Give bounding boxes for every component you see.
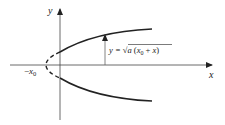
parabola-lower-branch	[60, 78, 152, 101]
vertex-label: −x0	[24, 66, 36, 77]
formula-label: y = √a (x0 + x)	[108, 45, 159, 56]
parabola-diagram: y x −x0 y = √a (x0 + x)	[0, 0, 225, 125]
y-axis-label: y	[47, 5, 53, 16]
x-axis-label: x	[208, 69, 214, 80]
